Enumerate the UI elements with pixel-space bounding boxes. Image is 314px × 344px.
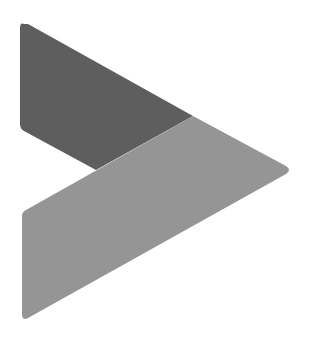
- logo-container: [0, 0, 314, 344]
- play-arrow-logo-icon: [0, 0, 314, 344]
